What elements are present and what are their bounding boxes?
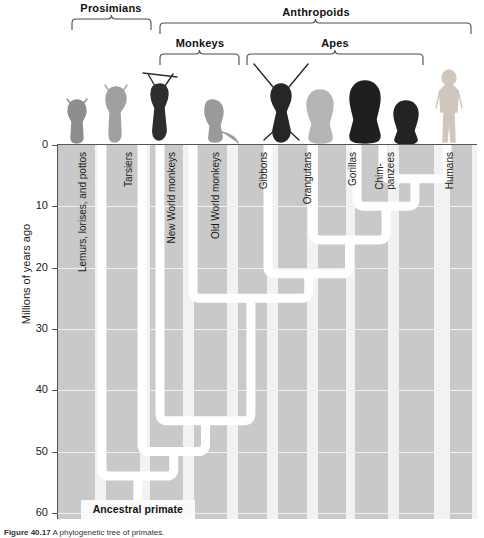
taxon-label-old-world-monkeys: Old World monkeys [211, 152, 222, 239]
y-axis-title: Millions of years ago [20, 204, 32, 344]
taxon-label-new-world-monkeys: New World monkeys [167, 152, 178, 244]
figure-caption-text: A phylogenetic tree of primates. [52, 528, 164, 537]
figure-caption-number: Figure 40.17 [4, 528, 51, 537]
bracket-label-apes: Apes [265, 37, 405, 49]
taxon-label-line: panzees [386, 152, 397, 190]
bracket-label-prosimians: Prosimians [41, 2, 181, 14]
y-axis-tick-label: 0 [22, 138, 48, 150]
y-axis-tick-label: 60 [22, 506, 48, 518]
taxon-label-chimpanzees: Chim-panzees [375, 152, 396, 190]
taxon-label-line: Lemurs, lorises, and pottos [78, 152, 89, 272]
macaque-illustration [196, 96, 240, 144]
taxon-label-humans: Humans [445, 152, 456, 189]
taxon-label-line: Orangutans [303, 152, 314, 204]
figure-caption: Figure 40.17 A phylogenetic tree of prim… [4, 528, 474, 537]
taxon-label-line: Old World monkeys [211, 152, 222, 239]
taxon-label-line: Gorillas [348, 152, 359, 186]
taxon-label-line: New World monkeys [167, 152, 178, 244]
bracket-anthropoids [159, 22, 472, 34]
lemur-illustration [64, 98, 90, 144]
y-axis-tick-label: 40 [22, 383, 48, 395]
taxon-label-line: Gibbons [259, 152, 270, 189]
taxon-label-line: Humans [445, 152, 456, 189]
primate-phylogeny-figure: ProsimiansAnthropoidsMonkeysApes 0102030… [0, 0, 484, 538]
bracket-monkeys [159, 53, 240, 65]
taxon-label-lemurs-lorises-and-pottos: Lemurs, lorises, and pottos [78, 152, 89, 272]
taxon-label-tarsiers: Tarsiers [124, 152, 135, 187]
tarsier-illustration [103, 84, 129, 144]
bracket-label-anthropoids: Anthropoids [246, 6, 386, 18]
taxon-label-orangutans: Orangutans [303, 152, 314, 204]
human-illustration [435, 68, 463, 144]
taxon-label-gibbons: Gibbons [259, 152, 270, 189]
bracket-label-monkeys: Monkeys [130, 37, 270, 49]
phylogenetic-tree [58, 145, 477, 519]
bracket-prosimians [71, 18, 152, 30]
orangutan-illustration [297, 86, 343, 144]
spider-monkey-illustration [140, 70, 180, 144]
taxon-label-line: Tarsiers [124, 152, 135, 187]
taxon-label-gorillas: Gorillas [348, 152, 359, 186]
chimpanzee-illustration [388, 98, 424, 144]
ancestral-primate-label: Ancestral primate [81, 500, 195, 519]
y-axis-tick-label: 50 [22, 445, 48, 457]
gorilla-illustration [341, 78, 389, 144]
